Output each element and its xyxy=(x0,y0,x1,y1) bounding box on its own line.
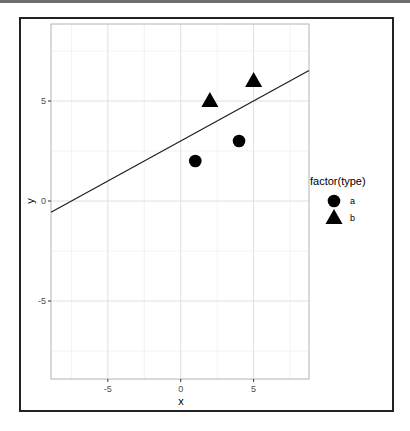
legend-label-b: b xyxy=(350,213,355,223)
data-point-a xyxy=(189,155,202,168)
x-tick-label: -5 xyxy=(104,384,112,394)
y-tick-label: 0 xyxy=(41,196,46,206)
data-point-b xyxy=(245,72,262,87)
x-tick-label: 5 xyxy=(251,384,256,394)
x-tick-label: 0 xyxy=(178,384,183,394)
y-tick-label: 5 xyxy=(41,96,46,106)
legend-label-a: a xyxy=(350,196,355,206)
regression-line xyxy=(51,71,309,213)
y-axis-title: y xyxy=(24,198,36,204)
legend-key-a xyxy=(328,195,341,208)
y-axis-ticks: -505 xyxy=(38,96,51,306)
legend-key-b xyxy=(326,209,343,224)
y-tick-label: -5 xyxy=(38,296,46,306)
legend-entries: ab xyxy=(326,195,356,224)
legend-title: factor(type) xyxy=(310,175,366,187)
data-points xyxy=(189,72,262,167)
x-axis-ticks: -505 xyxy=(104,379,256,394)
scatter-chart: -505 -505 x y factor(type) ab xyxy=(0,0,410,431)
major-gridlines xyxy=(51,24,309,379)
data-point-b xyxy=(201,92,218,107)
abline xyxy=(51,71,309,213)
data-point-a xyxy=(233,135,246,148)
legend: factor(type) ab xyxy=(310,175,366,224)
x-axis-title: x xyxy=(178,395,184,407)
